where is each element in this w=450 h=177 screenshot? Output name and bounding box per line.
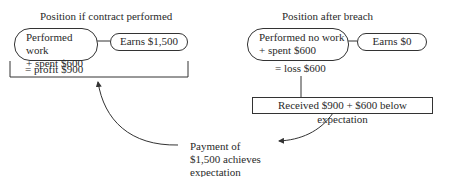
left-result: = profit $900 xyxy=(25,63,83,76)
payment-note: Payment of $1,500 achieves expectation xyxy=(190,140,261,177)
right-performed-box: Performed no work + spent $600 xyxy=(247,28,349,61)
right-box-line1: Performed no work xyxy=(259,31,348,44)
right-box-line2: + spent $600 xyxy=(259,44,348,57)
left-performed-box: Performed work + spent $600 xyxy=(14,28,98,61)
payment-line2: $1,500 achieves xyxy=(190,153,261,166)
received-box: Received $900 + $600 below expectation xyxy=(252,97,433,114)
left-box-line1: Performed work xyxy=(26,31,97,57)
left-earns-pill: Earns $1,500 xyxy=(110,33,188,51)
right-earns-pill: Earns $0 xyxy=(357,33,427,51)
left-title: Position if contract performed xyxy=(40,10,172,22)
payment-line3: expectation xyxy=(190,166,261,177)
payment-line1: Payment of xyxy=(190,140,261,153)
right-result: = loss $600 xyxy=(275,62,326,75)
right-title: Position after breach xyxy=(282,10,373,22)
